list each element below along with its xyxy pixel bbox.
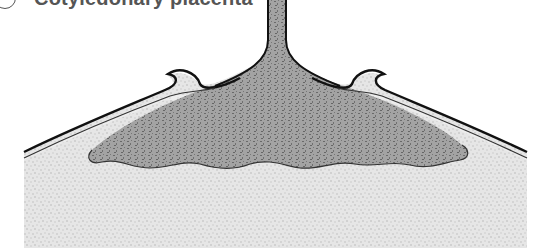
cotyledon [89,0,468,169]
placenta-diagram [0,0,551,248]
